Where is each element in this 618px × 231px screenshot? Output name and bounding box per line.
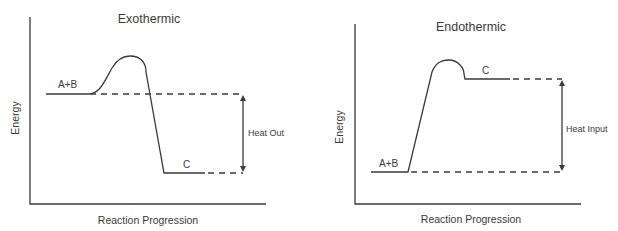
endothermic-title: Endothermic bbox=[436, 21, 506, 34]
endothermic-energy-curve bbox=[371, 60, 510, 172]
endothermic-y-axis-label: Energy bbox=[334, 110, 345, 143]
exothermic-title: Exothermic bbox=[118, 13, 181, 26]
endothermic-products-label: C bbox=[482, 66, 489, 76]
exothermic-products-label: C bbox=[183, 160, 190, 170]
endothermic-axes bbox=[355, 24, 581, 204]
exothermic-diagram bbox=[30, 17, 266, 204]
exothermic-energy-curve bbox=[46, 56, 205, 173]
endothermic-x-axis-label: Reaction Progression bbox=[421, 214, 521, 225]
energy-diagrams bbox=[0, 0, 618, 231]
exothermic-reactants-label: A+B bbox=[58, 80, 77, 90]
exothermic-y-axis-label: Energy bbox=[10, 101, 21, 134]
exothermic-x-axis-label: Reaction Progression bbox=[98, 215, 198, 226]
exothermic-axes bbox=[30, 17, 266, 204]
endothermic-diagram bbox=[355, 24, 581, 204]
endothermic-reactants-label: A+B bbox=[379, 159, 398, 169]
exothermic-heat-label: Heat Out bbox=[248, 129, 284, 138]
endothermic-heat-label: Heat Input bbox=[566, 125, 608, 134]
